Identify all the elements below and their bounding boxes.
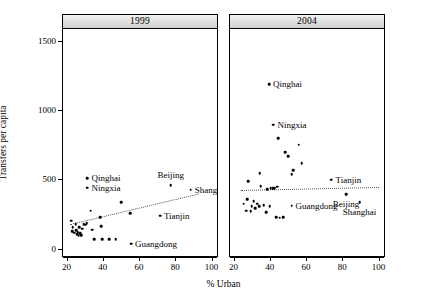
data-point xyxy=(259,172,262,175)
data-point-qinghai xyxy=(86,177,89,180)
data-point xyxy=(276,185,279,188)
data-point xyxy=(101,238,104,241)
data-point xyxy=(100,225,103,228)
data-point xyxy=(81,228,84,231)
data-point xyxy=(287,155,290,158)
data-point xyxy=(260,185,263,188)
data-point xyxy=(246,198,249,201)
point-label-ningxia: Ningxia xyxy=(91,183,120,192)
point-label-qinghai: Qinghai xyxy=(273,80,302,89)
point-label-beijing: Beijing xyxy=(158,171,185,180)
data-point xyxy=(250,210,253,213)
x-tick-label: 60 xyxy=(302,262,311,272)
data-point xyxy=(258,205,261,208)
data-point-guangdong xyxy=(130,242,133,245)
x-tick-label: 60 xyxy=(135,262,144,272)
y-tick-label: 0 xyxy=(52,244,57,254)
data-point xyxy=(266,188,269,191)
y-axis: 050010001500 xyxy=(22,29,62,257)
x-tick xyxy=(306,257,307,261)
data-point xyxy=(90,209,93,212)
data-point xyxy=(93,238,96,241)
data-point xyxy=(85,222,88,225)
data-point-ningxia xyxy=(86,187,89,190)
y-axis-label: Transfers per capita xyxy=(0,88,8,198)
data-point xyxy=(120,201,123,204)
panel-2004: 2004 QinghaiNingxiaTianjinBeijingShangha… xyxy=(229,14,385,257)
point-label-shanghai: Shanghai xyxy=(195,185,218,194)
data-point xyxy=(254,207,257,210)
data-point xyxy=(91,228,94,231)
data-point xyxy=(262,204,265,207)
data-point-beijing xyxy=(345,193,348,196)
x-tick-label: 80 xyxy=(338,262,347,272)
y-tick-label: 1000 xyxy=(38,105,56,115)
x-tick xyxy=(270,257,271,261)
data-point-tianjin xyxy=(159,214,162,217)
data-point-tianjin xyxy=(330,178,333,181)
x-tick-label: 20 xyxy=(229,262,238,272)
data-point xyxy=(275,216,278,219)
panel-strip-label: 1999 xyxy=(130,17,150,27)
data-point xyxy=(284,151,287,154)
x-tick xyxy=(103,257,104,261)
data-point xyxy=(269,205,272,208)
data-point xyxy=(245,209,248,212)
panel-1999: 1999 QinghaiNingxiaBeijingShanghaiTianji… xyxy=(62,14,218,257)
data-point xyxy=(277,137,280,140)
x-tick xyxy=(139,257,140,261)
x-tick-label: 40 xyxy=(265,262,274,272)
data-point xyxy=(129,212,132,215)
x-tick xyxy=(212,257,213,261)
point-label-guangdong: Guangdong xyxy=(135,239,177,248)
data-point xyxy=(80,234,83,237)
x-axis-1999: 20406080100 xyxy=(62,257,218,277)
x-tick xyxy=(234,257,235,261)
data-point xyxy=(292,169,295,172)
data-point xyxy=(108,238,111,241)
x-tick-label: 20 xyxy=(62,262,71,272)
data-point xyxy=(290,173,293,176)
data-point xyxy=(252,200,255,203)
x-tick-label: 100 xyxy=(205,262,219,272)
x-tick-label: 80 xyxy=(171,262,180,272)
data-point xyxy=(242,202,245,205)
point-label-guangdong: Guangdong xyxy=(296,201,338,210)
data-point xyxy=(250,205,253,208)
data-point-beijing xyxy=(170,184,173,187)
point-label-tianjin: Tianjin xyxy=(164,211,190,220)
data-point xyxy=(70,219,73,222)
data-layer-2004: QinghaiNingxiaTianjinBeijingShanghaiGuan… xyxy=(230,29,384,256)
data-point xyxy=(99,216,102,219)
point-label-shanghai: Shanghai xyxy=(343,208,377,217)
x-tick-label: 100 xyxy=(372,262,386,272)
data-layer-1999: QinghaiNingxiaBeijingShanghaiTianjinGuan… xyxy=(63,29,217,256)
data-point xyxy=(247,180,250,183)
x-tick-label: 40 xyxy=(98,262,107,272)
data-point xyxy=(75,223,78,226)
data-point-shanghai xyxy=(358,201,361,204)
data-point xyxy=(265,211,268,214)
data-point xyxy=(282,216,285,219)
x-axis-label: % Urban xyxy=(206,279,240,289)
data-point-ningxia xyxy=(272,123,275,126)
panel-strip-label: 2004 xyxy=(297,17,317,27)
data-point-qinghai xyxy=(268,83,271,86)
data-point xyxy=(114,238,117,241)
point-label-tianjin: Tianjin xyxy=(335,175,361,184)
y-tick-label: 1500 xyxy=(38,36,56,46)
y-tick-label: 500 xyxy=(43,174,57,184)
panel-strip-2004: 2004 xyxy=(229,14,385,29)
x-axis-2004: 20406080100 xyxy=(229,257,385,277)
plot-area-2004: QinghaiNingxiaTianjinBeijingShanghaiGuan… xyxy=(229,29,385,257)
x-tick xyxy=(379,257,380,261)
data-point xyxy=(298,143,301,146)
data-point-shanghai xyxy=(189,189,192,192)
data-point xyxy=(279,216,282,219)
regression-line xyxy=(241,187,379,191)
panel-strip-1999: 1999 xyxy=(62,14,218,29)
data-point-guangdong xyxy=(290,205,293,208)
point-label-ningxia: Ningxia xyxy=(277,120,306,129)
x-tick xyxy=(67,257,68,261)
scatter-plot-figure: Transfers per capita % Urban 05001000150… xyxy=(0,0,421,300)
